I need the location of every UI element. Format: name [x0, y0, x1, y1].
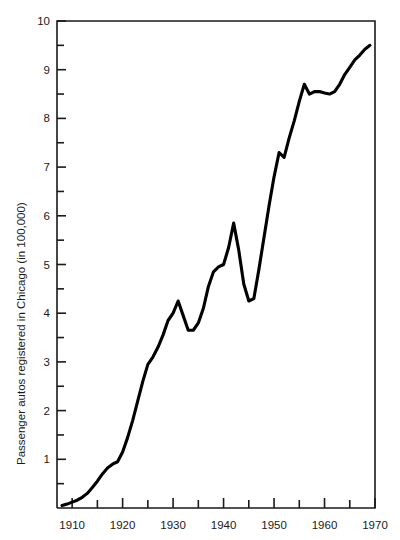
y-tick-label: 5: [44, 259, 50, 271]
x-tick-label: 1940: [211, 519, 237, 531]
y-tick-label: 6: [44, 210, 50, 222]
y-axis-label: Passenger autos registered in Chicago (i…: [15, 202, 27, 465]
x-tick-label: 1960: [312, 519, 338, 531]
y-tick-label: 10: [37, 15, 50, 27]
x-tick-label: 1950: [261, 519, 287, 531]
y-tick-label: 2: [44, 405, 50, 417]
data-line-passenger-autos: [62, 45, 370, 505]
line-chart: Passenger autos registered in Chicago (i…: [0, 0, 400, 540]
x-tick-label: 1910: [59, 519, 85, 531]
y-tick-label: 8: [44, 112, 50, 124]
x-axis-tick-labels: 1910192019301940195019601970: [59, 519, 387, 531]
y-tick-label: 4: [44, 307, 51, 319]
y-tick-label: 9: [44, 64, 50, 76]
x-axis-major-ticks: [72, 498, 375, 508]
y-tick-label: 7: [44, 161, 50, 173]
y-axis-label-group: Passenger autos registered in Chicago (i…: [15, 202, 27, 465]
chart-figure: Passenger autos registered in Chicago (i…: [0, 0, 400, 540]
y-tick-label: 1: [44, 453, 50, 465]
y-tick-label: 3: [44, 356, 50, 368]
x-tick-label: 1970: [362, 519, 388, 531]
x-tick-label: 1920: [110, 519, 136, 531]
x-tick-label: 1930: [160, 519, 186, 531]
y-axis-tick-labels: 12345678910: [37, 15, 50, 465]
data-series-group: [62, 45, 370, 505]
